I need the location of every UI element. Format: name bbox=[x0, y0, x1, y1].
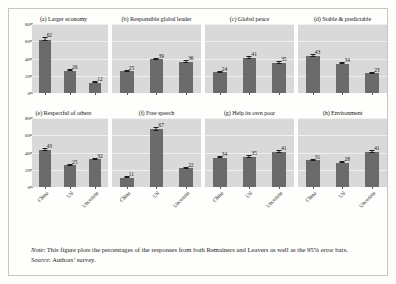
error-cap-bottom bbox=[370, 152, 375, 153]
x-tick-slot bbox=[268, 93, 291, 107]
bar-slot: 25 bbox=[60, 118, 80, 187]
x-tick-slot bbox=[361, 93, 384, 107]
x-tick-slot bbox=[208, 93, 231, 107]
x-tick-label-us: US bbox=[65, 190, 74, 199]
bar-value-label: 28 bbox=[344, 156, 349, 162]
bar-slot: 31 bbox=[301, 118, 324, 187]
bar-a-us: 26 bbox=[64, 71, 76, 93]
bar-e-china: 43 bbox=[39, 150, 51, 187]
error-cap-bottom bbox=[310, 56, 315, 57]
bar-value-label: 35 bbox=[251, 150, 256, 156]
x-tick-label-china: China bbox=[304, 190, 317, 203]
bar-group-d: 433423 bbox=[298, 24, 387, 93]
bar-value-label: 67 bbox=[158, 122, 163, 128]
x-axis-c bbox=[205, 93, 294, 107]
error-cap-bottom bbox=[184, 62, 189, 63]
x-tick-slot: China bbox=[35, 187, 55, 201]
panel-title-c: (c) Global peace bbox=[205, 15, 294, 23]
plot-area-h: 312841 bbox=[298, 118, 387, 187]
bar-a-china: 62 bbox=[39, 40, 51, 93]
x-tick-label-uncertain: Uncertain bbox=[172, 190, 191, 209]
x-tick-mark bbox=[372, 93, 373, 95]
x-tick-mark bbox=[95, 93, 96, 95]
bar-slot: 32 bbox=[85, 118, 105, 187]
panel-title-e: (e) Respectful of others bbox=[19, 109, 108, 117]
bar-slot: 41 bbox=[238, 24, 261, 93]
x-tick-mark bbox=[220, 93, 221, 95]
plot-area-e: 432532 bbox=[32, 118, 108, 187]
x-tick-label-china: China bbox=[118, 190, 131, 203]
error-cap-bottom bbox=[93, 159, 98, 160]
bar-value-label: 25 bbox=[72, 159, 77, 165]
error-cap-bottom bbox=[67, 70, 72, 71]
error-cap-bottom bbox=[42, 150, 47, 151]
x-tick-mark bbox=[95, 187, 96, 189]
error-cap-bottom bbox=[277, 152, 282, 153]
bar-slot: 11 bbox=[115, 118, 138, 187]
error-cap-bottom bbox=[247, 58, 252, 59]
bar-slot: 12 bbox=[85, 24, 105, 93]
bar-value-label: 11 bbox=[129, 171, 134, 177]
panel-body-g: 343541 bbox=[205, 118, 294, 187]
x-tick-mark bbox=[249, 93, 250, 95]
bar-slot: 28 bbox=[331, 118, 354, 187]
panel-body-h: 312841 bbox=[298, 118, 387, 187]
x-axis-b bbox=[112, 93, 201, 107]
error-cap-bottom bbox=[184, 168, 189, 169]
x-tick-mark bbox=[186, 93, 187, 95]
bar-slot: 35 bbox=[268, 24, 291, 93]
x-axis-a bbox=[32, 93, 108, 107]
bar-slot: 39 bbox=[145, 24, 168, 93]
bar-b-uncertain: 36 bbox=[179, 62, 193, 93]
bar-f-us: 67 bbox=[150, 129, 164, 187]
error-cap-bottom bbox=[124, 71, 129, 72]
bar-d-us: 34 bbox=[336, 64, 350, 93]
plot-area-b: 253936 bbox=[112, 24, 201, 93]
bar-value-label: 39 bbox=[158, 53, 163, 59]
bar-h-us: 28 bbox=[336, 163, 350, 187]
x-tick-mark bbox=[279, 187, 280, 189]
x-tick-mark bbox=[342, 187, 343, 189]
bar-value-label: 12 bbox=[97, 76, 102, 82]
x-tick-label-uncertain: Uncertain bbox=[265, 190, 284, 209]
bar-g-us: 35 bbox=[243, 157, 257, 187]
x-tick-mark bbox=[313, 93, 314, 95]
bar-value-label: 31 bbox=[315, 154, 320, 160]
x-tick-mark bbox=[156, 187, 157, 189]
x-tick-slot bbox=[115, 93, 138, 107]
error-cap-bottom bbox=[217, 157, 222, 158]
bar-value-label: 41 bbox=[374, 145, 379, 151]
error-cap-bottom bbox=[310, 160, 315, 161]
x-axis-g: ChinaUSUncertain bbox=[205, 187, 294, 201]
panel-body-c: 244135 bbox=[205, 24, 294, 93]
x-tick-slot bbox=[301, 93, 324, 107]
bar-e-uncertain: 32 bbox=[89, 159, 101, 187]
panel-body-a: 806040200622612 bbox=[19, 24, 108, 93]
y-axis-a: 806040200 bbox=[19, 24, 32, 93]
x-tick-slot: China bbox=[115, 187, 138, 201]
x-tick-slot: China bbox=[208, 187, 231, 201]
bar-slot: 23 bbox=[361, 24, 384, 93]
error-cap-bottom bbox=[340, 162, 345, 163]
bar-group-g: 343541 bbox=[205, 118, 294, 187]
x-tick-mark bbox=[45, 93, 46, 95]
x-tick-label-us: US bbox=[152, 190, 161, 199]
bar-slot: 34 bbox=[331, 24, 354, 93]
x-tick-mark bbox=[156, 93, 157, 95]
figure-note-block: Note: This figure plots the percentages … bbox=[31, 245, 369, 265]
plot-area-g: 343541 bbox=[205, 118, 294, 187]
x-tick-slot: US bbox=[331, 187, 354, 201]
bar-group-b: 253936 bbox=[112, 24, 201, 93]
bar-slot: 62 bbox=[35, 24, 55, 93]
error-cap-bottom bbox=[370, 73, 375, 74]
bar-f-china: 11 bbox=[120, 178, 134, 187]
x-axis-d bbox=[298, 93, 387, 107]
error-cap-bottom bbox=[42, 40, 47, 41]
bar-group-e: 432532 bbox=[32, 118, 108, 187]
bar-slot: 34 bbox=[208, 118, 231, 187]
bar-value-label: 62 bbox=[47, 32, 52, 38]
bar-a-uncertain: 12 bbox=[89, 83, 101, 93]
panel-a: (a) Larger economy806040200622612 bbox=[19, 15, 108, 107]
bar-slot: 67 bbox=[145, 118, 168, 187]
bar-value-label: 24 bbox=[222, 66, 227, 72]
